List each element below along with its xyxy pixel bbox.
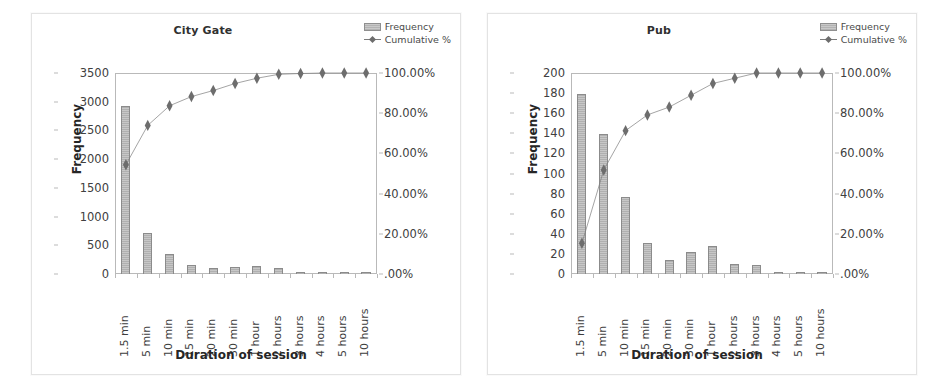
x-tick-mark xyxy=(746,274,747,278)
bar[interactable] xyxy=(187,265,196,274)
bar[interactable] xyxy=(686,252,695,274)
y-tick-mark xyxy=(510,233,514,234)
y-tick-mark xyxy=(54,216,58,217)
x-tick-mark xyxy=(571,274,572,278)
y-tick-mark xyxy=(510,73,514,74)
bar-slot xyxy=(115,73,137,274)
x-tick-mark xyxy=(312,274,313,278)
plot-area: 0500100015002000250030003500 .00%20.00%4… xyxy=(115,73,377,274)
chart-city-gate: City Gate Frequency Cumulative % Frequen… xyxy=(31,13,461,375)
bar[interactable] xyxy=(752,265,761,274)
x-tick-mark xyxy=(355,274,356,278)
bar[interactable] xyxy=(643,243,652,274)
x-tick-mark xyxy=(333,274,334,278)
x-tick-marks xyxy=(571,274,833,278)
y-tick-label: 3500 xyxy=(80,66,109,80)
y-tick-label: 20 xyxy=(550,247,565,261)
y2-tick-label: 20.00% xyxy=(840,227,884,241)
x-tick-mark xyxy=(246,274,247,278)
y2-tick-label: 100.00% xyxy=(840,66,891,80)
x-tick-mark xyxy=(789,274,790,278)
y2-tick-mark xyxy=(379,233,383,234)
bar-slot xyxy=(658,73,680,274)
bar-slot xyxy=(593,73,615,274)
bar-slot xyxy=(746,73,768,274)
x-tick-mark xyxy=(833,274,834,278)
y-tick-label: 2500 xyxy=(80,123,109,137)
chart-legend: Frequency Cumulative % xyxy=(820,20,907,46)
bar-slot xyxy=(789,73,811,274)
y2-tick-mark xyxy=(379,274,383,275)
bar-group xyxy=(115,73,377,274)
bar[interactable] xyxy=(230,267,239,274)
x-tick-marks xyxy=(115,274,377,278)
x-tick-mark xyxy=(137,274,138,278)
bar-slot xyxy=(202,73,224,274)
x-tick-mark xyxy=(181,274,182,278)
y-tick-mark xyxy=(510,253,514,254)
bar[interactable] xyxy=(577,94,586,274)
y-tick-mark xyxy=(510,274,514,275)
bar[interactable] xyxy=(599,134,608,274)
y-tick-label: 160 xyxy=(543,106,565,120)
bar[interactable] xyxy=(621,197,630,274)
plot-area: 020406080100120140160180200 .00%20.00%40… xyxy=(571,73,833,274)
y-tick-label: 0 xyxy=(102,267,109,281)
y-tick-label: 3000 xyxy=(80,95,109,109)
bar-group xyxy=(571,73,833,274)
y-axis-right: .00%20.00%40.00%60.00%80.00%100.00% xyxy=(384,73,454,274)
y-axis-left: 020406080100120140160180200 xyxy=(511,73,565,274)
bar-swatch-icon xyxy=(364,23,381,31)
y-tick-mark xyxy=(54,130,58,131)
bar[interactable] xyxy=(252,266,261,274)
legend-label-cumulative: Cumulative % xyxy=(841,33,907,46)
y-tick-label: 100 xyxy=(543,167,565,181)
y-tick-mark xyxy=(54,101,58,102)
bar[interactable] xyxy=(121,106,130,274)
y-tick-mark xyxy=(510,213,514,214)
bar[interactable] xyxy=(730,264,739,274)
legend-entry-frequency: Frequency xyxy=(364,20,451,33)
line-marker-icon xyxy=(820,36,837,44)
bar-slot xyxy=(615,73,637,274)
bar-slot xyxy=(246,73,268,274)
y2-tick-mark xyxy=(379,113,383,114)
bar-slot xyxy=(355,73,377,274)
y2-tick-label: 60.00% xyxy=(840,146,884,160)
y-axis-right: .00%20.00%40.00%60.00%80.00%100.00% xyxy=(840,73,910,274)
bar-slot xyxy=(180,73,202,274)
x-axis-title: Duration of session xyxy=(558,348,836,362)
x-tick-mark xyxy=(593,274,594,278)
y2-tick-label: 60.00% xyxy=(384,146,428,160)
x-tick-mark xyxy=(811,274,812,278)
x-tick-mark xyxy=(290,274,291,278)
legend-entry-cumulative: Cumulative % xyxy=(364,33,451,46)
x-tick-mark xyxy=(615,274,616,278)
bar[interactable] xyxy=(708,246,717,274)
chart-pub: Pub Frequency Cumulative % Frequency 020… xyxy=(487,13,917,375)
y-tick-label: 120 xyxy=(543,146,565,160)
x-tick-mark xyxy=(159,274,160,278)
y2-tick-mark xyxy=(379,153,383,154)
y2-tick-mark xyxy=(835,113,839,114)
bar-slot xyxy=(137,73,159,274)
y2-tick-label: 80.00% xyxy=(840,106,884,120)
y2-tick-mark xyxy=(835,153,839,154)
y-tick-label: 40 xyxy=(550,227,565,241)
bar-slot xyxy=(159,73,181,274)
chart-legend: Frequency Cumulative % xyxy=(364,20,451,46)
bar[interactable] xyxy=(165,254,174,274)
y-tick-label: 1000 xyxy=(80,210,109,224)
x-tick-mark xyxy=(224,274,225,278)
y2-tick-label: .00% xyxy=(840,267,869,281)
x-tick-mark xyxy=(680,274,681,278)
y2-tick-mark xyxy=(835,274,839,275)
y2-tick-label: 80.00% xyxy=(384,106,428,120)
bar[interactable] xyxy=(143,233,152,274)
bar-slot xyxy=(333,73,355,274)
y-tick-label: 180 xyxy=(543,86,565,100)
bar-slot xyxy=(811,73,833,274)
bar[interactable] xyxy=(665,260,674,274)
legend-label-frequency: Frequency xyxy=(841,20,890,33)
y-tick-label: 1500 xyxy=(80,181,109,195)
